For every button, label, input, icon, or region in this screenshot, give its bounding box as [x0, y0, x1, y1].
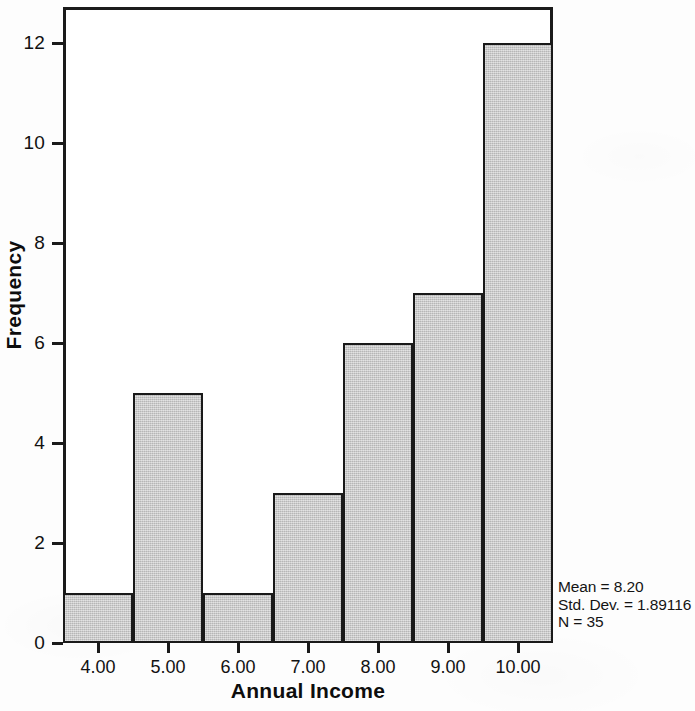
histogram-bar: [203, 593, 273, 643]
stat-n: N = 35: [558, 613, 691, 631]
stat-std-dev: Std. Dev. = 1.89116: [558, 596, 691, 614]
y-axis-tick-label: 10: [1, 132, 45, 154]
x-axis-tick-label: 5.00: [150, 657, 185, 678]
y-axis-tick-label: 12: [1, 32, 45, 54]
x-axis-tick-mark: [97, 643, 100, 653]
x-axis-tick-label: 9.00: [430, 657, 465, 678]
y-axis-tick-mark: [52, 442, 63, 445]
histogram-bar: [273, 493, 343, 643]
y-axis-tick-label: 2: [1, 532, 45, 554]
x-axis-tick-label: 8.00: [360, 657, 395, 678]
stat-mean: Mean = 8.20: [558, 578, 691, 596]
histogram-bars: [63, 7, 553, 643]
y-axis-title: Frequency: [2, 185, 26, 405]
y-axis-tick-label: 4: [1, 432, 45, 454]
x-axis-tick-mark: [307, 643, 310, 653]
y-axis-tick-label: 0: [1, 632, 45, 654]
x-axis-title: Annual Income: [63, 679, 553, 703]
histogram-bar: [343, 343, 413, 643]
histogram-bar: [133, 393, 203, 643]
x-axis-tick-mark: [447, 643, 450, 653]
statistics-annotation: Mean = 8.20 Std. Dev. = 1.89116 N = 35: [558, 578, 691, 631]
x-axis-tick-mark: [517, 643, 520, 653]
histogram-bar: [413, 293, 483, 643]
x-axis-tick-mark: [377, 643, 380, 653]
y-axis-tick-mark: [52, 142, 63, 145]
y-axis-tick-mark: [52, 42, 63, 45]
y-axis-tick-mark: [52, 642, 63, 645]
histogram-figure: 024681012 Frequency Annual Income 4.005.…: [0, 0, 695, 711]
y-axis-tick-mark: [52, 542, 63, 545]
x-axis-tick-mark: [237, 643, 240, 653]
x-axis-tick-label: 4.00: [80, 657, 115, 678]
x-axis-tick-label: 7.00: [290, 657, 325, 678]
y-axis-tick-mark: [52, 342, 63, 345]
histogram-bar: [483, 43, 553, 643]
histogram-bar: [63, 593, 133, 643]
x-axis-tick-label: 6.00: [220, 657, 255, 678]
x-axis-tick-label: 10.00: [495, 657, 540, 678]
x-axis-tick-mark: [167, 643, 170, 653]
y-axis-tick-mark: [52, 242, 63, 245]
